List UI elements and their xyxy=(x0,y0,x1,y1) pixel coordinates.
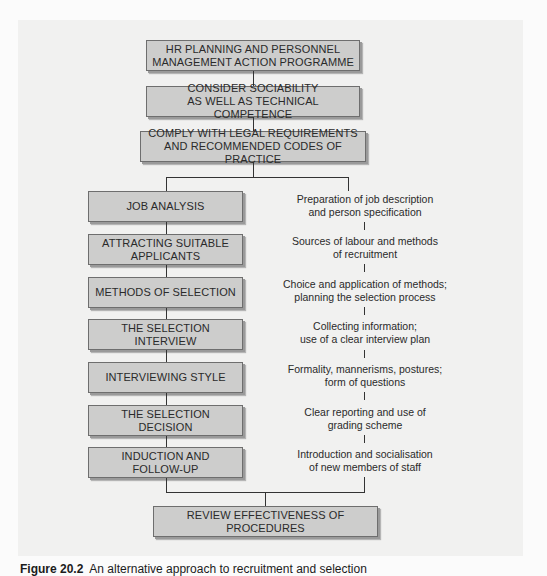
box-consider-sociability: CONSIDER SOCIABILITY AS WELL AS TECHNICA… xyxy=(146,86,360,117)
note-attracting-applicants: Sources of labour and methods of recruit… xyxy=(270,235,460,261)
connector-line xyxy=(166,308,167,319)
note-job-analysis: Preparation of job description and perso… xyxy=(270,193,460,219)
connector-line xyxy=(364,350,365,358)
connector-line xyxy=(166,436,167,447)
connector-line xyxy=(253,162,254,177)
note-selection-decision: Clear reporting and use of grading schem… xyxy=(270,406,460,432)
box-hr-planning: HR PLANNING AND PERSONNEL MANAGEMENT ACT… xyxy=(146,40,360,71)
box-attracting-applicants: ATTRACTING SUITABLE APPLICANTS xyxy=(88,234,243,265)
box-job-analysis: JOB ANALYSIS xyxy=(88,191,243,222)
connector-line xyxy=(364,477,365,492)
connector-line xyxy=(364,307,365,315)
connector-line xyxy=(364,435,365,443)
figure-caption: Figure 20.2An alternative approach to re… xyxy=(20,562,367,576)
note-selection-interview: Collecting information; use of a clear i… xyxy=(270,320,460,346)
note-interviewing-style: Formality, mannerisms, postures; form of… xyxy=(264,363,466,389)
figure-caption-text: An alternative approach to recruitment a… xyxy=(89,562,367,576)
box-selection-decision: THE SELECTION DECISION xyxy=(88,405,243,436)
connector-line xyxy=(265,492,266,506)
connector-line xyxy=(166,222,167,234)
connector-line xyxy=(166,393,167,405)
box-induction-follow-up: INDUCTION AND FOLLOW-UP xyxy=(88,447,243,478)
connector-line xyxy=(364,222,365,230)
connector-line xyxy=(166,265,167,277)
box-methods-of-selection: METHODS OF SELECTION xyxy=(88,277,243,308)
connector-line xyxy=(166,350,167,362)
box-review-effectiveness: REVIEW EFFECTIVENESS OF PROCEDURES xyxy=(153,506,378,537)
connector-line xyxy=(364,264,365,272)
box-comply-legal: COMPLY WITH LEGAL REQUIREMENTS AND RECOM… xyxy=(140,131,366,162)
figure-number: Figure 20.2 xyxy=(20,562,83,576)
connector-line xyxy=(364,392,365,400)
connector-line xyxy=(166,478,167,492)
connector-line xyxy=(166,177,167,191)
connector-line xyxy=(348,177,349,191)
note-methods-of-selection: Choice and application of methods; plann… xyxy=(264,278,466,304)
note-induction-follow-up: Introduction and socialisation of new me… xyxy=(270,448,460,474)
branch-split-line xyxy=(166,177,349,178)
box-selection-interview: THE SELECTION INTERVIEW xyxy=(88,319,243,350)
box-interviewing-style: INTERVIEWING STYLE xyxy=(88,362,243,393)
